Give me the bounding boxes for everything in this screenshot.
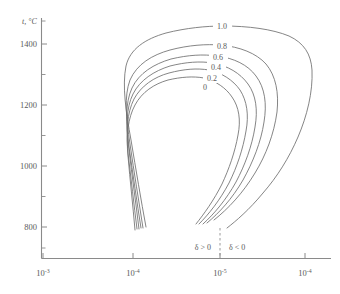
axes-group (42, 18, 332, 259)
x-tick-exp-2: -4 (135, 268, 140, 274)
delta-positive-label: δ > 0 (195, 243, 211, 252)
y-axis-title: t, °C (22, 17, 37, 26)
x-tick-exp-3: -5 (222, 268, 227, 274)
x-tick-base-1: 10 (36, 268, 45, 278)
contour-plot-figure: 1400 1200 1000 800 t, °C 10-3 10-4 10-5 … (0, 0, 340, 294)
x-tick-label-4: 10-4 (298, 268, 311, 279)
x-tick-exp-1: -3 (45, 268, 50, 274)
contour-curve-0.6 (127, 55, 266, 228)
x-tick-labels: 10-3 10-4 10-5 10-4 (36, 268, 311, 279)
contour-curve-0.4 (127, 62, 256, 229)
plot-canvas: 1400 1200 1000 800 t, °C 10-3 10-4 10-5 … (0, 0, 340, 294)
contour-label-0.4: 0.4 (211, 63, 221, 72)
x-major-ticks (43, 253, 305, 259)
contour-curve-0.8 (126, 45, 277, 228)
x-tick-base-4: 10 (298, 268, 307, 278)
y-tick-labels: 1400 1200 1000 800 (20, 39, 37, 232)
x-tick-exp-4: -4 (307, 268, 312, 274)
x-tick-label-1: 10-3 (36, 268, 49, 279)
contour-label-0.6: 0.6 (213, 53, 223, 62)
x-tick-label-3: 10-5 (213, 268, 226, 279)
contour-labels: 1.0 0.8 0.6 0.4 0.2 0 (200, 20, 232, 92)
y-tick-label-800: 800 (24, 222, 37, 232)
x-tick-base-3: 10 (213, 268, 222, 278)
contour-label-0: 0 (203, 83, 207, 92)
delta-negative-label: δ < 0 (229, 243, 245, 252)
x-tick-base-2: 10 (126, 268, 135, 278)
y-tick-label-1200: 1200 (20, 100, 37, 110)
x-tick-label-2: 10-4 (126, 268, 139, 279)
y-tick-label-1400: 1400 (20, 39, 37, 49)
contour-label-0.8: 0.8 (217, 42, 227, 51)
contour-curve-0 (127, 77, 239, 230)
contour-label-1.0: 1.0 (217, 22, 227, 31)
y-minor-ticks (42, 21, 46, 248)
y-tick-label-1000: 1000 (20, 161, 37, 171)
